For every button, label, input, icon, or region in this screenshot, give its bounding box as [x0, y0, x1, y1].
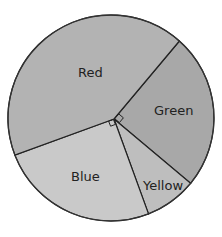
slice-label-blue: Blue [71, 169, 100, 184]
pie-chart: Red Green Yellow Blue [0, 0, 222, 237]
slice-label-red: Red [78, 65, 103, 80]
slice-label-green: Green [154, 103, 193, 118]
slice-label-yellow: Yellow [142, 178, 183, 193]
